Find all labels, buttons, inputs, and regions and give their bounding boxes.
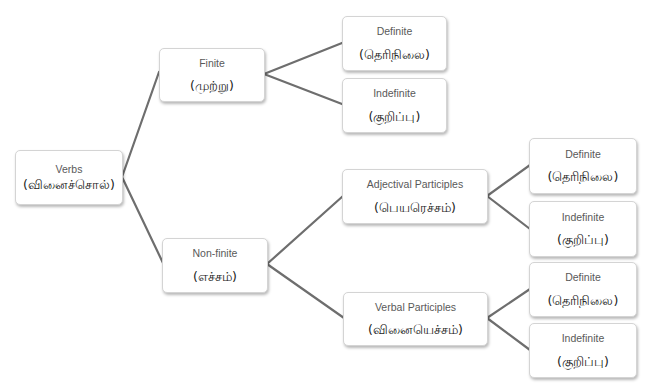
node-label-ta: (தெரிநிலை) xyxy=(359,47,430,62)
node-verbal-participles: Verbal Participles (வினையெச்சம்) xyxy=(343,292,488,346)
node-adjectival-definite: Definite (தெரிநிலை) xyxy=(529,138,637,194)
edge-nonfinite-verbal xyxy=(267,264,344,318)
node-label-en: Definite xyxy=(565,271,601,284)
node-label-ta: (தெரிநிலை) xyxy=(548,293,619,308)
edge-verbal-definite xyxy=(487,289,530,318)
edge-adjectival-indefinite xyxy=(487,196,530,229)
node-label-en: Finite xyxy=(199,57,225,70)
edge-nonfinite-adjectival xyxy=(267,196,343,264)
node-label-ta: (முற்று) xyxy=(190,78,234,93)
node-label-ta: (வினையெச்சம்) xyxy=(368,322,463,337)
node-label-ta: (எச்சம்) xyxy=(193,269,237,284)
node-adjectival-participles: Adjectival Participles (பெயரெச்சம்) xyxy=(342,169,488,224)
node-label-ta: (குறிப்பு) xyxy=(369,109,421,124)
node-label-en: Definite xyxy=(565,148,601,161)
node-label-ta: (தெரிநிலை) xyxy=(548,169,619,184)
edge-adjectival-definite xyxy=(487,165,530,196)
edge-finite-indefinite xyxy=(264,74,342,104)
node-label-en: Indefinite xyxy=(562,211,605,224)
edge-finite-definite xyxy=(264,43,342,74)
edge-verbal-indefinite xyxy=(487,318,530,350)
node-verbal-definite: Definite (தெரிநிலை) xyxy=(529,262,637,317)
node-label-en: Indefinite xyxy=(373,87,416,100)
node-finite-indefinite: Indefinite (குறிப்பு) xyxy=(342,78,447,133)
node-nonfinite: Non-finite (எச்சம்) xyxy=(162,238,268,293)
node-label-en: Adjectival Participles xyxy=(367,178,463,191)
node-verbal-indefinite: Indefinite (குறிப்பு) xyxy=(529,323,637,378)
node-label-ta: (பெயரெச்சம்) xyxy=(374,200,456,215)
node-finite-definite: Definite (தெரிநிலை) xyxy=(342,16,447,71)
node-label-ta: (குறிப்பு) xyxy=(557,354,609,369)
node-label-en: Verbal Participles xyxy=(375,301,456,314)
node-verbs: Verbs (வினைச்சொல்) xyxy=(15,150,123,205)
node-label-en: Indefinite xyxy=(562,332,605,345)
node-adjectival-indefinite: Indefinite (குறிப்பு) xyxy=(529,201,637,257)
node-label-en: Definite xyxy=(377,25,413,38)
node-label-ta: (குறிப்பு) xyxy=(557,232,609,247)
node-label-en: Verbs xyxy=(56,163,83,176)
node-label-en: Non-finite xyxy=(193,247,238,260)
node-label-ta: (வினைச்சொல்) xyxy=(23,177,115,192)
node-finite: Finite (முற்று) xyxy=(159,48,265,102)
edge-verbs-nonfinite xyxy=(122,177,163,263)
edge-verbs-finite xyxy=(122,72,159,177)
